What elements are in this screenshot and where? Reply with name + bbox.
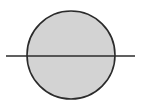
diagram-canvas <box>0 0 147 105</box>
circle-with-line-diagram <box>0 0 147 105</box>
gray-circle <box>27 11 115 99</box>
